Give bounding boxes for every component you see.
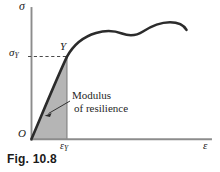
yield-stress-subscript: Y bbox=[14, 51, 18, 60]
epsilon-axis-label: ε bbox=[203, 140, 207, 151]
yield-stress-label: σY bbox=[9, 47, 19, 60]
sigma-axis-label: σ bbox=[19, 0, 25, 12]
modulus-of-resilience-annotation: Modulus of resilience bbox=[72, 89, 178, 115]
yield-strain-label: εY bbox=[60, 141, 68, 153]
annotation-line-2: of resilience bbox=[74, 102, 178, 115]
figure-caption: Fig. 10.8 bbox=[7, 152, 57, 166]
yield-strain-subscript: Y bbox=[64, 144, 68, 153]
annotation-line-1: Modulus bbox=[72, 89, 111, 101]
yield-point-label: Y bbox=[60, 41, 66, 52]
origin-label: O bbox=[18, 128, 26, 139]
stress-strain-plot bbox=[0, 0, 220, 172]
figure-container: σ ε σY εY O Y Modulus of resilience Fig.… bbox=[0, 0, 220, 172]
